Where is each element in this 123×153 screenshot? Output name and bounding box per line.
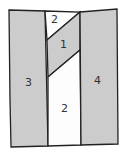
piece-1-label: 1 bbox=[60, 38, 67, 51]
piece-3-label: 3 bbox=[25, 76, 32, 89]
piece-2-bottom-label: 2 bbox=[61, 102, 68, 115]
piece-4-label: 4 bbox=[94, 74, 101, 87]
piece-2-top-label: 2 bbox=[51, 13, 58, 26]
quilt-block-diagram: 3 2 1 2 4 bbox=[0, 0, 123, 153]
